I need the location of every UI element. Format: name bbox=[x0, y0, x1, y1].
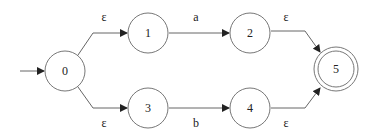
edge-3-4-label: b bbox=[193, 117, 199, 129]
edge-4-5-label: ε bbox=[283, 117, 288, 129]
edge-0-1 bbox=[78, 33, 127, 55]
edge-0-3-label: ε bbox=[101, 117, 106, 129]
state-3-label: 3 bbox=[145, 102, 151, 114]
edge-0-1-label: ε bbox=[101, 11, 106, 23]
state-0-label: 0 bbox=[62, 65, 68, 77]
state-2-label: 2 bbox=[247, 27, 253, 39]
edge-1-2-label: a bbox=[193, 11, 198, 23]
edge-2-5-label: ε bbox=[283, 11, 288, 23]
nfa-diagram bbox=[0, 0, 375, 137]
edge-4-5 bbox=[271, 88, 320, 108]
edge-0-3 bbox=[78, 87, 127, 108]
state-4-label: 4 bbox=[247, 102, 253, 114]
state-5-label: 5 bbox=[333, 63, 339, 75]
state-1-label: 1 bbox=[145, 27, 151, 39]
edge-2-5 bbox=[271, 31, 320, 52]
